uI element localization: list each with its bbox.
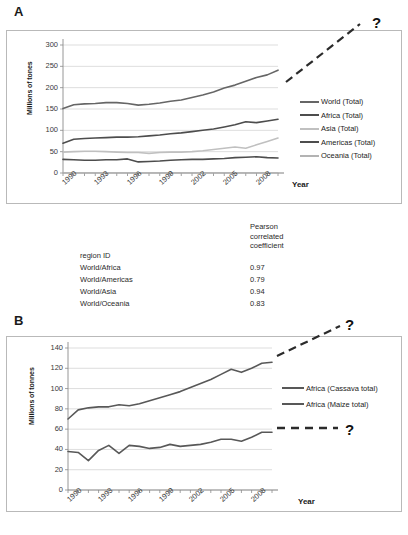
legend-item-label: Africa (Total) bbox=[321, 111, 363, 120]
panelA-y-tick: 300 bbox=[29, 40, 58, 49]
panelB-y-tick: 100 bbox=[34, 384, 63, 393]
table-header-col2-line1: Pearson bbox=[250, 222, 284, 232]
table-row-region-1: World/Americas bbox=[80, 275, 133, 284]
panelA-y-tick: 250 bbox=[29, 61, 58, 70]
legend-line-swatch-icon bbox=[300, 101, 319, 103]
panelA-y-tick: 0 bbox=[29, 168, 58, 177]
table-row-coefficient-2: 0.94 bbox=[250, 287, 265, 296]
legend-line-swatch-icon bbox=[300, 114, 319, 116]
legend-line-swatch-icon bbox=[300, 128, 319, 130]
legend-item-africa-total[interactable]: Africa (Total) bbox=[300, 109, 375, 123]
table-row-coefficient-1: 0.79 bbox=[250, 275, 265, 284]
legend-item-oceania-total[interactable]: Oceania (Total) bbox=[300, 149, 375, 163]
panelB-y-tick: 80 bbox=[34, 404, 63, 413]
panel-b-question-mark-bottom: ? bbox=[345, 421, 354, 438]
legend-item-label: World (Total) bbox=[321, 97, 363, 106]
table-header-col1: region ID bbox=[80, 251, 110, 260]
panelB-y-tick: 20 bbox=[34, 465, 63, 474]
legend-item-africa-cassava-total[interactable]: Africa (Cassava total) bbox=[282, 380, 378, 396]
table-row-coefficient-0: 0.97 bbox=[250, 263, 265, 272]
legend-line-swatch-icon bbox=[282, 387, 304, 389]
legend-item-label: Americas (Total) bbox=[321, 138, 375, 147]
legend-item-label: Oceania (Total) bbox=[321, 151, 372, 160]
legend-item-world-total[interactable]: World (Total) bbox=[300, 95, 375, 109]
table-row-region-3: World/Oceania bbox=[80, 299, 129, 308]
panel-a-question-mark: ? bbox=[372, 14, 381, 31]
panelB-y-tick: 40 bbox=[34, 444, 63, 453]
panelA-y-tick: 100 bbox=[29, 125, 58, 134]
panelB-y-tick: 140 bbox=[34, 343, 63, 352]
legend-item-americas-total[interactable]: Americas (Total) bbox=[300, 136, 375, 150]
panel-b-legend: Africa (Cassava total)Africa (Maize tota… bbox=[282, 380, 378, 412]
legend-line-swatch-icon bbox=[282, 403, 304, 405]
legend-item-label: Asia (Total) bbox=[321, 124, 359, 133]
panel-b-x-axis-title: Year bbox=[298, 497, 315, 506]
panel-b-y-axis-label: Millions of tonnes bbox=[28, 367, 35, 425]
panelA-y-tick: 150 bbox=[29, 104, 58, 113]
table-header-col2-line2: correlated bbox=[250, 232, 284, 242]
legend-line-swatch-icon bbox=[300, 155, 319, 157]
panel-b-letter: B bbox=[14, 313, 23, 328]
legend-item-asia-total[interactable]: Asia (Total) bbox=[300, 122, 375, 136]
table-header-col2-line3: coefficient bbox=[250, 241, 284, 251]
legend-line-swatch-icon bbox=[300, 141, 319, 143]
legend-item-africa-maize-total[interactable]: Africa (Maize total) bbox=[282, 396, 378, 412]
table-row-coefficient-3: 0.83 bbox=[250, 299, 265, 308]
panelB-y-tick: 60 bbox=[34, 424, 63, 433]
panelA-y-tick: 50 bbox=[29, 147, 58, 156]
table-header-col2: Pearson correlated coefficient bbox=[250, 222, 284, 251]
panelA-y-tick: 200 bbox=[29, 83, 58, 92]
panel-a-legend: World (Total)Africa (Total)Asia (Total)A… bbox=[300, 95, 375, 163]
panel-a-x-axis-title: Year bbox=[292, 180, 309, 189]
panelB-y-tick: 0 bbox=[34, 485, 63, 494]
panel-a-letter: A bbox=[14, 4, 23, 19]
legend-item-label: Africa (Cassava total) bbox=[306, 384, 378, 393]
legend-item-label: Africa (Maize total) bbox=[306, 400, 369, 409]
table-row-region-0: World/Africa bbox=[80, 263, 121, 272]
panel-b-question-mark-top: ? bbox=[345, 316, 354, 333]
panelB-y-tick: 120 bbox=[34, 363, 63, 372]
panel-b-box bbox=[6, 336, 402, 512]
table-row-region-2: World/Asia bbox=[80, 287, 116, 296]
